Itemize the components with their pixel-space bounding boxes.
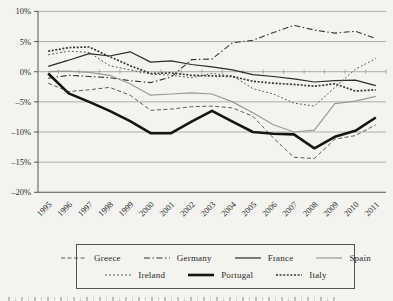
- legend-label-spain: Spain: [349, 253, 371, 263]
- scanned-chart-page: { "chart_data": { "type": "line", "title…: [0, 0, 393, 301]
- y-axis-label-–10%: –10%: [10, 127, 31, 137]
- x-axis-label-2006: 2006: [260, 199, 279, 218]
- legend-item-italy: Italy: [275, 270, 327, 280]
- x-axis-label-2003: 2003: [198, 199, 217, 218]
- legend-marker-germany: [143, 254, 171, 262]
- y-axis-label-–20%: –20%: [10, 187, 31, 197]
- legend-marker-italy: [275, 271, 303, 279]
- legend-row: IrelandPortugalItaly: [81, 270, 350, 280]
- x-axis-label-1998: 1998: [96, 199, 115, 218]
- legend-row: GreeceGermanyFranceSpain: [81, 253, 350, 263]
- legend-label-italy: Italy: [309, 270, 327, 280]
- legend-label-france: France: [268, 253, 294, 263]
- x-axis-label-2005: 2005: [239, 199, 258, 218]
- legend-marker-ireland: [104, 271, 132, 279]
- x-axis-label-1995: 1995: [35, 199, 54, 218]
- chart-legend: GreeceGermanyFranceSpainIrelandPortugalI…: [76, 244, 355, 289]
- legend-label-ireland: Ireland: [138, 270, 165, 280]
- x-axis-label-2000: 2000: [137, 199, 156, 218]
- legend-item-portugal: Portugal: [187, 270, 253, 280]
- legend-item-greece: Greece: [60, 253, 121, 263]
- legend-label-portugal: Portugal: [221, 270, 253, 280]
- x-axis-label-2011: 2011: [362, 199, 381, 218]
- x-axis-label-2004: 2004: [219, 199, 239, 219]
- x-axis-label-2009: 2009: [321, 199, 340, 218]
- x-axis-label-2008: 2008: [301, 199, 320, 218]
- y-axis-label-–5%: –5%: [14, 97, 31, 107]
- x-axis-label-1999: 1999: [116, 199, 135, 218]
- y-axis-label-0%: 0%: [20, 67, 31, 77]
- y-axis-label-5%: 5%: [20, 37, 31, 47]
- legend-marker-france: [234, 254, 262, 262]
- legend-label-greece: Greece: [94, 253, 121, 263]
- legend-item-ireland: Ireland: [104, 270, 165, 280]
- legend-marker-portugal: [187, 271, 215, 279]
- legend-label-germany: Germany: [177, 253, 212, 263]
- x-axis-label-2001: 2001: [157, 199, 176, 218]
- legend-item-germany: Germany: [143, 253, 212, 263]
- x-axis-label-2007: 2007: [280, 199, 299, 218]
- legend-item-spain: Spain: [315, 253, 371, 263]
- chart-svg: 10%5%0%–5%–10%–15%–20%199519961997199819…: [0, 0, 393, 240]
- legend-marker-spain: [315, 254, 343, 262]
- series-line-italy: [48, 47, 376, 91]
- x-axis-label-2010: 2010: [342, 199, 361, 218]
- y-axis-label-–15%: –15%: [10, 157, 31, 167]
- series-line-france: [48, 52, 376, 86]
- legend-marker-greece: [60, 254, 88, 262]
- chart-plot: 10%5%0%–5%–10%–15%–20%199519961997199819…: [0, 0, 393, 244]
- cropped-caption-sliver: [8, 297, 338, 301]
- legend-item-france: France: [234, 253, 294, 263]
- x-axis-label-1997: 1997: [75, 199, 94, 218]
- y-axis-label-10%: 10%: [15, 6, 31, 16]
- x-axis-label-1996: 1996: [55, 199, 74, 218]
- x-axis-label-2002: 2002: [178, 199, 197, 218]
